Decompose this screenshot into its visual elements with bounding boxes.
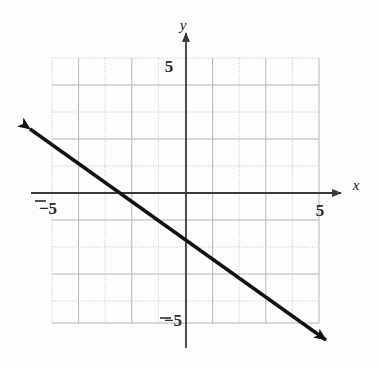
y-tick-label-positive: 5 bbox=[165, 57, 174, 76]
x-axis-label: x bbox=[352, 177, 360, 193]
graph-container: x y 5 −5 5 −5 bbox=[0, 0, 379, 368]
x-tick-label-positive: 5 bbox=[316, 201, 325, 220]
y-axis-label: y bbox=[178, 17, 187, 33]
x-tick-label-negative: −5 bbox=[39, 199, 57, 218]
coordinate-plane-svg: x y 5 −5 5 −5 bbox=[0, 0, 379, 368]
figure-background bbox=[0, 0, 379, 368]
y-tick-label-negative: −5 bbox=[164, 311, 182, 330]
